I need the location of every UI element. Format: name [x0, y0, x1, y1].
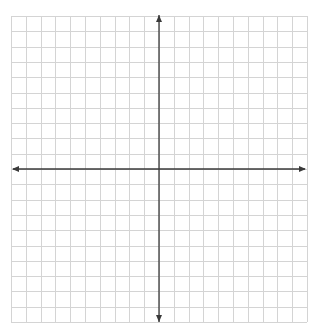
coordinate-plane — [0, 0, 316, 334]
axes — [12, 15, 306, 322]
arrowhead-right-icon — [299, 166, 306, 172]
arrowhead-down-icon — [156, 315, 162, 322]
arrowhead-left-icon — [12, 166, 19, 172]
